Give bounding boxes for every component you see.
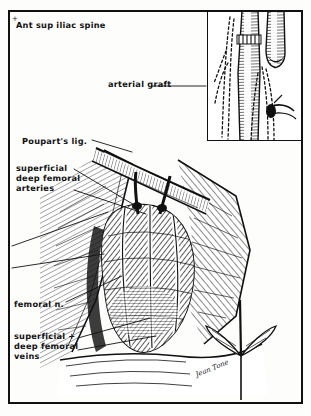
inset-drawing [208,11,303,141]
illustration-plate: + Ant sup iliac spine arterial graft Pou… [0,0,311,416]
label-femoral-nerve: femoral n. [14,299,64,309]
inset-graft-limb [262,11,290,77]
label-femoral-arteries: superficial deep femoral arteries [16,163,80,194]
inset-ligated-branch [266,95,296,119]
arterial-graft-inset [207,10,303,141]
label-ant-sup-iliac-spine: Ant sup iliac spine [16,20,106,30]
label-femoral-veins: superficial + deep femoral veins [14,331,78,362]
label-arterial-graft: arterial graft [108,79,171,89]
label-poupart-ligament: Poupart's lig. [22,136,87,146]
inset-vessel-trunk [234,11,266,141]
